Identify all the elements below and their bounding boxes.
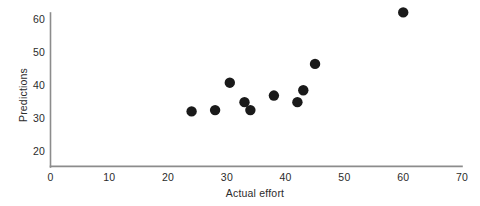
x-tick-label: 40: [280, 171, 292, 183]
y-tick-label: 30: [33, 112, 45, 124]
y-tick-label: 20: [33, 145, 45, 157]
x-tick-label: 0: [47, 171, 53, 183]
x-axis-title: Actual effort: [226, 187, 284, 199]
y-tick-label: 50: [33, 46, 45, 58]
x-tick-label: 50: [338, 171, 350, 183]
x-tick-label: 30: [221, 171, 233, 183]
y-axis-title: Predictions: [17, 68, 29, 122]
x-tick-label: 70: [456, 171, 468, 183]
y-tick-label: 60: [33, 13, 45, 25]
data-point: [269, 90, 279, 100]
x-tick-label: 60: [397, 171, 409, 183]
data-point: [298, 85, 308, 95]
y-tick-label: 40: [33, 79, 45, 91]
scatter-chart-figure: 010203040506070 2030405060 Actual effort…: [0, 0, 480, 206]
data-point: [245, 105, 255, 115]
data-point: [225, 77, 235, 87]
x-tick-label: 20: [162, 171, 174, 183]
data-point: [310, 59, 320, 69]
data-point: [210, 105, 220, 115]
data-point: [398, 7, 408, 17]
axis-lines: [51, 13, 463, 167]
data-point: [186, 106, 196, 116]
data-point-group: [186, 7, 408, 116]
x-tick-label: 10: [103, 171, 115, 183]
data-point: [292, 97, 302, 107]
